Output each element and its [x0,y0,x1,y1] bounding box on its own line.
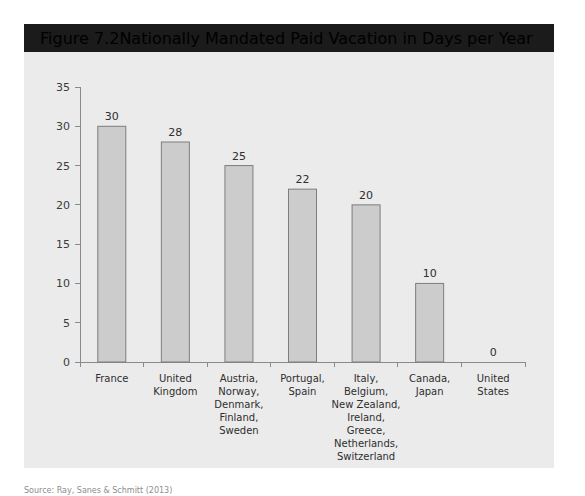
y-tick-label: 10 [56,277,70,290]
category-labels: FranceUnitedKingdomAustria,Norway,Denmar… [95,373,509,462]
bar [416,283,444,362]
category-label: New Zealand, [332,399,401,410]
bar-chart: 05101520253035 3028252220100 FranceUnite… [24,52,554,468]
category-label: France [95,373,128,384]
y-tick-label: 0 [63,356,70,369]
category-label: Norway, [218,386,259,397]
category-label: United [159,373,192,384]
category-label: United [477,373,510,384]
y-tick-label: 30 [56,120,70,133]
bar [161,142,189,362]
x-axis [80,362,525,367]
bar-value-label: 25 [232,150,246,163]
bar-value-label: 22 [296,173,310,186]
y-tick-label: 20 [56,199,70,212]
bar-value-label: 20 [359,189,373,202]
category-label: Netherlands, [334,438,398,449]
source-note: Source: Ray, Sanes & Schmitt (2013) [24,486,172,496]
category-label: Sweden [219,425,259,436]
category-label: Switzerland [337,451,395,462]
bar [352,205,380,362]
y-tick-label: 25 [56,160,70,173]
y-axis: 05101520253035 [56,81,80,369]
y-tick-label: 5 [63,317,70,330]
category-label: Finland, [219,412,258,423]
bar [289,189,317,362]
figure-title: Nationally Mandated Paid Vacation in Day… [119,29,532,48]
y-tick-label: 35 [56,81,70,94]
figure-header: Figure 7.2 Nationally Mandated Paid Vaca… [24,24,554,52]
category-label: Belgium, [344,386,388,397]
category-label: Kingdom [153,386,197,397]
chart-panel: 05101520253035 3028252220100 FranceUnite… [24,52,554,468]
y-tick-label: 15 [56,238,70,251]
category-label: Denmark, [214,399,263,410]
category-label: Spain [289,386,317,397]
category-label: Portugal, [280,373,325,384]
bar [225,166,253,362]
bar-value-label: 0 [490,346,497,359]
bar-value-label: 10 [423,267,437,280]
category-label: Austria, [220,373,259,384]
category-label: Greece, [347,425,386,436]
category-label: States [477,386,509,397]
category-label: Japan [415,386,444,397]
category-label: Ireland, [347,412,385,423]
bar-series [98,126,444,362]
category-label: Canada, [409,373,450,384]
category-label: Italy, [354,373,379,384]
figure-number: Figure 7.2 [40,29,119,48]
bar-value-label: 28 [168,126,182,139]
bar-value-label: 30 [105,110,119,123]
bar [98,126,126,362]
